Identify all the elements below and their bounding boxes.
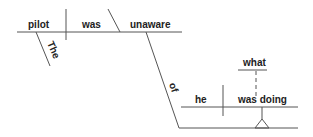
word-article: The: [45, 39, 62, 60]
word-subject: pilot: [28, 19, 50, 30]
word-clause-verb: was doing: [237, 94, 287, 105]
word-verb: was: [81, 19, 101, 30]
word-clause-object: what: [242, 57, 266, 68]
sentence-diagram: pilot was unaware The of he was doing wh…: [0, 0, 313, 137]
predicate-divider: [108, 9, 120, 32]
preposition-line: [146, 32, 179, 128]
pedestal-triangle-icon: [255, 119, 269, 128]
word-clause-subject: he: [195, 94, 207, 105]
word-predicate-adjective: unaware: [130, 19, 171, 30]
word-preposition: of: [167, 81, 181, 94]
